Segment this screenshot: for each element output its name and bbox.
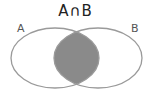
set-a-label: A	[17, 22, 25, 35]
diagram-title: A∩B	[0, 2, 151, 20]
set-b-label: B	[131, 22, 139, 35]
